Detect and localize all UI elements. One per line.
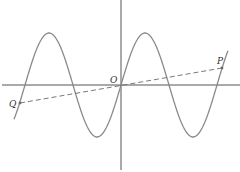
point-q-marker xyxy=(19,102,22,105)
origin-label: O xyxy=(110,75,118,85)
point-p-label: P xyxy=(216,56,224,66)
function-plot: O P Q xyxy=(0,0,240,172)
point-q-label: Q xyxy=(9,99,17,109)
point-p-marker xyxy=(221,67,224,70)
graph-canvas: O P Q xyxy=(0,0,240,172)
